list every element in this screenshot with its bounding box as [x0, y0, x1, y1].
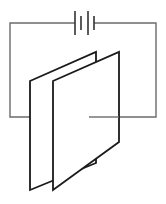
capacitor-circuit-diagram [0, 0, 166, 204]
battery-icon [75, 11, 94, 35]
